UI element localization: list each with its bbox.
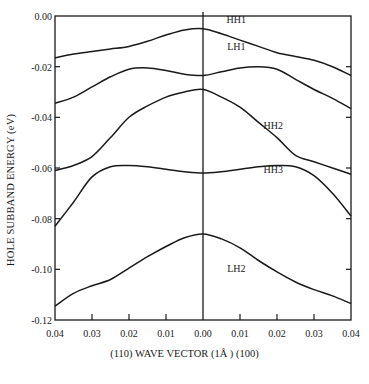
y-tick-label: -0.04: [31, 112, 52, 123]
x-tick-label: 0.04: [342, 328, 360, 339]
y-tick-label: -0.06: [31, 163, 52, 174]
x-tick-label: 0.03: [83, 328, 101, 339]
x-tick-label: 0.01: [231, 328, 249, 339]
label-lh2: LH2: [227, 263, 245, 274]
y-axis-title-text: HOLE SUBBAND ENERGY (eV): [5, 114, 16, 266]
y-tick-label: -0.08: [31, 214, 52, 225]
label-lh1: LH1: [227, 41, 245, 52]
x-tick-label: 0.04: [46, 328, 64, 339]
y-tick-label: -0.02: [31, 62, 52, 73]
chart: 0.00-0.02-0.04-0.06-0.08-0.10-0.120.040.…: [0, 0, 369, 384]
y-tick-label: 0.00: [35, 11, 53, 22]
x-tick-label: 0.02: [268, 328, 286, 339]
x-axis-title: (110) WAVE VECTOR (1Å ) (100): [0, 348, 369, 359]
label-hh1: HH1: [227, 14, 246, 25]
y-tick-label: -0.10: [31, 264, 52, 275]
x-tick-label: 0.00: [194, 328, 212, 339]
label-hh3: HH3: [264, 164, 283, 175]
x-tick-label: 0.03: [305, 328, 323, 339]
y-axis-title: HOLE SUBBAND ENERGY (eV): [2, 60, 18, 320]
label-hh2: HH2: [264, 120, 283, 131]
y-tick-label: -0.12: [31, 315, 52, 326]
x-tick-label: 0.01: [157, 328, 175, 339]
x-tick-label: 0.02: [120, 328, 138, 339]
